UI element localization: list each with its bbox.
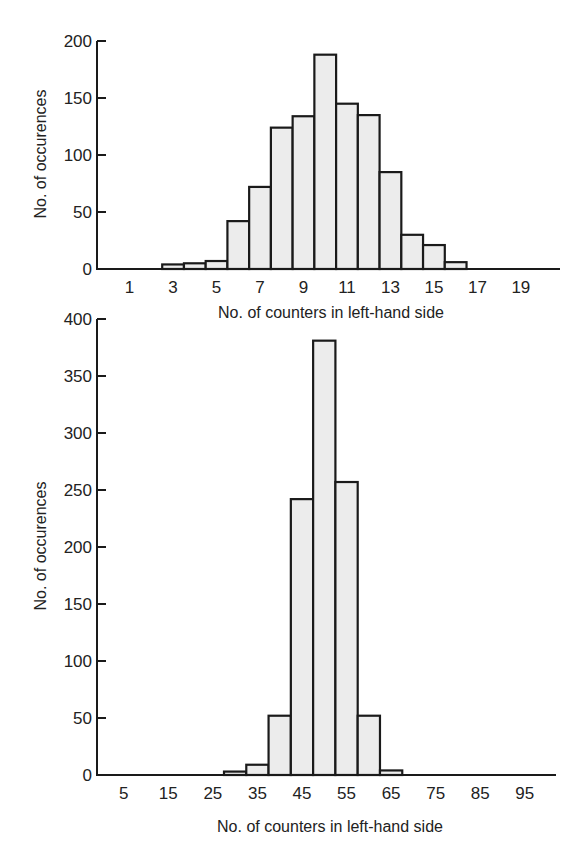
top-x-tick-label: 15 [424,278,443,297]
top-x-tick-label: 9 [299,278,308,297]
top-histogram-bar [336,104,358,269]
histogram-figure: 050100150200 135791113151719 No. of coun… [0,0,577,855]
top-histogram-bars [162,55,466,269]
top-histogram-bar [293,116,315,269]
bottom-y-tick-label: 0 [83,766,92,785]
bottom-y-tick-label: 250 [64,481,92,500]
top-histogram-x-ticks: 135791113151719 [125,278,530,297]
bottom-histogram-y-axis-title: No. of occurences [32,482,49,611]
bottom-x-tick-label: 45 [293,784,312,803]
top-histogram-bar [206,261,228,269]
top-histogram-y-axis-title: No. of occurences [32,90,49,219]
bottom-histogram-bar [269,716,291,775]
bottom-y-tick-label: 150 [64,595,92,614]
bottom-x-tick-label: 55 [337,784,356,803]
top-x-tick-label: 17 [468,278,487,297]
bottom-y-tick-label: 300 [64,424,92,443]
top-histogram-bar [358,115,380,269]
bottom-histogram-bars [224,341,402,775]
bottom-histogram-x-axis-title: No. of counters in left-hand side [217,818,443,835]
top-y-tick-label: 150 [64,89,92,108]
top-y-tick-label: 200 [64,32,92,51]
top-x-tick-label: 7 [255,278,264,297]
top-x-tick-label: 1 [125,278,134,297]
bottom-x-tick-label: 15 [159,784,178,803]
bottom-y-tick-label: 200 [64,538,92,557]
bottom-x-tick-label: 25 [203,784,222,803]
top-histogram-bar [227,221,249,269]
top-y-tick-label: 0 [83,260,92,279]
bottom-histogram-bar [313,341,335,775]
top-histogram-bar [401,235,423,269]
bottom-x-tick-label: 65 [382,784,401,803]
bottom-x-tick-label: 5 [119,784,128,803]
bottom-histogram-bar [246,765,268,775]
bottom-x-tick-label: 95 [515,784,534,803]
top-y-tick-label: 100 [64,146,92,165]
top-histogram-bar [445,262,467,269]
bottom-histogram-bar [358,716,380,775]
bottom-y-tick-label: 50 [73,709,92,728]
bottom-histogram: 050100150200250300350400 515253545556575… [32,310,556,835]
top-histogram-bar [314,55,336,269]
top-histogram-bar [249,187,271,269]
top-histogram-x-axis-title: No. of counters in left-hand side [218,304,444,321]
bottom-x-tick-label: 85 [471,784,490,803]
top-histogram-bar [423,245,445,269]
top-x-tick-label: 5 [212,278,221,297]
top-x-tick-label: 19 [511,278,530,297]
bottom-y-tick-label: 350 [64,367,92,386]
bottom-y-tick-label: 400 [64,310,92,329]
top-histogram-bar [380,172,402,269]
bottom-histogram-x-ticks: 5152535455565758595 [119,784,534,803]
top-x-tick-label: 11 [338,278,356,297]
bottom-histogram-bar [335,482,357,775]
bottom-y-tick-label: 100 [64,652,92,671]
top-histogram-bar [271,128,293,269]
bottom-histogram-bar [291,499,313,775]
top-y-tick-label: 50 [73,203,92,222]
bottom-x-tick-label: 35 [248,784,267,803]
top-histogram-y-ticks: 050100150200 [64,32,106,279]
top-histogram: 050100150200 135791113151719 No. of coun… [32,32,560,321]
bottom-histogram-y-ticks: 050100150200250300350400 [64,310,106,785]
top-x-tick-label: 3 [168,278,177,297]
top-x-tick-label: 13 [381,278,400,297]
bottom-x-tick-label: 75 [426,784,445,803]
